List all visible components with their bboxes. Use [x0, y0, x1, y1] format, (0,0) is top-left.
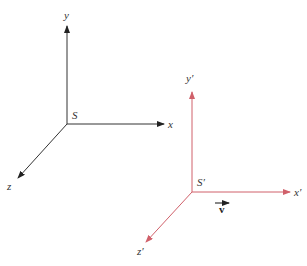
sp-z-axis — [146, 192, 192, 242]
reference-frames-diagram: S y x z S′ y′ x′ z′ v — [0, 0, 307, 266]
sp-y-label: y′ — [185, 72, 194, 84]
velocity-label: v — [219, 203, 225, 215]
frame-s: S y x z — [6, 9, 173, 192]
s-y-label: y — [63, 9, 69, 21]
sp-origin-label: S′ — [197, 176, 206, 188]
sp-z-label: z′ — [136, 245, 144, 257]
frame-s-prime: S′ y′ x′ z′ — [136, 72, 302, 257]
s-z-label: z — [6, 180, 12, 192]
sp-x-label: x′ — [293, 186, 302, 198]
velocity-vector: v — [215, 203, 229, 215]
s-origin-label: S — [72, 109, 78, 121]
s-z-axis — [18, 124, 67, 178]
s-x-label: x — [167, 118, 173, 130]
